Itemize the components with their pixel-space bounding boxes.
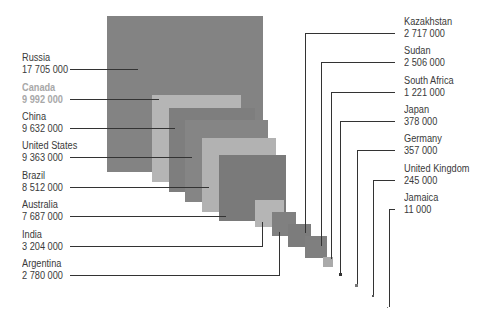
label-value: 9 992 000 <box>22 94 63 106</box>
leader-india-h <box>70 246 263 247</box>
square-sudan <box>305 236 327 258</box>
leader-argentina-h <box>70 275 280 276</box>
label-value: 2 717 000 <box>404 28 452 40</box>
leader-india-v <box>262 222 263 247</box>
label-name: Kazakhstan <box>404 16 452 28</box>
leader-canada <box>70 99 159 100</box>
label-name: United Kingdom <box>404 163 469 175</box>
label-name: China <box>22 111 63 123</box>
label-value: 7 687 000 <box>22 211 63 223</box>
label-name: Japan <box>404 104 437 116</box>
leader-south-africa-h <box>331 92 395 93</box>
label-value: 2 780 000 <box>22 270 63 282</box>
label-united-kingdom: United Kingdom 245 000 <box>404 163 469 187</box>
square-jamaica <box>387 307 388 308</box>
label-china: China 9 632 000 <box>22 111 63 135</box>
leader-japan-v <box>340 121 341 273</box>
label-brazil: Brazil 8 512 000 <box>22 170 63 194</box>
label-name: Argentina <box>22 258 63 270</box>
label-sudan: Sudan 2 506 000 <box>404 45 445 69</box>
square-united-kingdom <box>372 295 374 297</box>
leader-china <box>70 128 175 129</box>
leader-jamaica-v <box>389 209 390 307</box>
label-value: 11 000 <box>404 204 438 216</box>
label-germany: Germany 357 000 <box>404 133 442 157</box>
leader-brazil <box>70 187 209 188</box>
label-canada: Canada 9 992 000 <box>22 82 63 106</box>
label-australia: Australia 7 687 000 <box>22 199 63 223</box>
label-jamaica: Jamaica 11 000 <box>404 192 438 216</box>
label-name: Jamaica <box>404 192 438 204</box>
leader-sudan-v <box>321 62 322 246</box>
label-value: 3 204 000 <box>22 241 63 253</box>
leader-united-states <box>70 157 192 158</box>
label-united-states: United States 9 363 000 <box>22 140 77 164</box>
label-name: Germany <box>404 133 442 145</box>
label-name: Sudan <box>404 45 445 57</box>
leader-germany-v <box>357 150 358 284</box>
label-value: 2 506 000 <box>404 57 445 69</box>
leader-germany-h <box>357 150 395 151</box>
label-india: India 3 204 000 <box>22 229 63 253</box>
leader-united-kingdom-v <box>373 180 374 295</box>
label-value: 378 000 <box>404 116 437 128</box>
leader-australia <box>70 216 226 217</box>
label-japan: Japan 378 000 <box>404 104 437 128</box>
label-value: 357 000 <box>404 145 442 157</box>
label-value: 1 221 000 <box>404 87 454 99</box>
label-name: United States <box>22 140 77 152</box>
label-value: 245 000 <box>404 175 469 187</box>
label-south-africa: South Africa 1 221 000 <box>404 75 454 99</box>
label-value: 17 705 000 <box>22 64 68 76</box>
label-russia: Russia 17 705 000 <box>22 52 68 76</box>
leader-russia <box>70 69 138 70</box>
label-kazakhstan: Kazakhstan 2 717 000 <box>404 16 452 40</box>
label-value: 9 363 000 <box>22 152 77 164</box>
leader-united-kingdom-h <box>373 180 395 181</box>
label-name: Australia <box>22 199 63 211</box>
leader-sudan-h <box>321 62 395 63</box>
leader-kazakhstan-v <box>305 33 306 233</box>
leader-argentina-v <box>279 232 280 276</box>
leader-south-africa-v <box>331 92 332 259</box>
label-name: South Africa <box>404 75 454 87</box>
label-value: 8 512 000 <box>22 182 63 194</box>
square-japan <box>339 273 342 276</box>
label-name: Russia <box>22 52 68 64</box>
label-value: 9 632 000 <box>22 123 63 135</box>
label-argentina: Argentina 2 780 000 <box>22 258 63 282</box>
square-germany <box>355 284 358 287</box>
label-name: India <box>22 229 63 241</box>
label-name: Canada <box>22 82 63 94</box>
label-name: Brazil <box>22 170 63 182</box>
leader-kazakhstan-h <box>305 33 395 34</box>
leader-japan-h <box>340 121 395 122</box>
